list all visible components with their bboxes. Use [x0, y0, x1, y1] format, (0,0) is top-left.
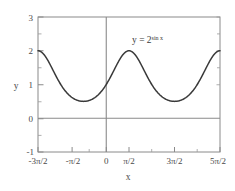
equation-base: y = 2: [132, 35, 152, 45]
plot-svg: 3 2 1 0 -1 -3π/2 -π/2 0 π/2 3π/2 5π/2 y …: [0, 0, 235, 191]
equation-exponent: sin x: [152, 35, 164, 41]
xtick-label-pi2: π/2: [123, 156, 135, 166]
x-axis-label: x: [126, 172, 131, 182]
y-axis-label: y: [14, 81, 19, 91]
xtick-label-mpi2: -π/2: [66, 156, 81, 166]
ytick-label-1: 1: [29, 80, 34, 90]
xtick-label-3pi2: 3π/2: [166, 156, 182, 166]
curve-equation-annotation: y = 2sin x: [132, 35, 163, 46]
xtick-label-m3pi2: -3π/2: [28, 156, 47, 166]
xtick-label-5pi2: 5π/2: [210, 156, 226, 166]
ytick-label-2: 2: [29, 46, 34, 56]
xtick-label-0: 0: [104, 156, 109, 166]
plot-frame: [38, 17, 220, 152]
ytick-label-0: 0: [29, 114, 34, 124]
ytick-label-m1: -1: [27, 147, 35, 157]
chart-figure: 3 2 1 0 -1 -3π/2 -π/2 0 π/2 3π/2 5π/2 y …: [0, 0, 235, 191]
ytick-label-3: 3: [29, 13, 34, 23]
curve-2-pow-sin-x: [38, 51, 220, 102]
